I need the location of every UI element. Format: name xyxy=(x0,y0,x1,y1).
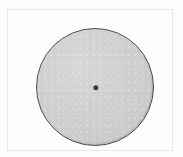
disc-shape xyxy=(36,28,154,146)
center-point-marker xyxy=(93,85,98,90)
figure-canvas xyxy=(0,0,183,157)
disc-group xyxy=(36,28,154,146)
